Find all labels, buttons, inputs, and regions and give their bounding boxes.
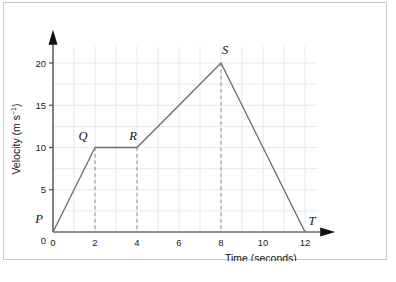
x-axis-arrowhead (320, 228, 335, 237)
x-tick-label: 10 (258, 237, 269, 248)
point-label-t: T (309, 214, 317, 228)
x-tick-label: 2 (92, 237, 97, 248)
y-tick-label: 5 (41, 184, 46, 195)
point-label-r: R (128, 129, 137, 143)
x-tick-label: 0 (50, 237, 55, 248)
point-labels: PQRST (34, 43, 316, 228)
point-label-p: P (34, 212, 43, 226)
y-axis-arrowhead (49, 30, 58, 45)
x-tick-label: 6 (176, 237, 181, 248)
x-tick-label: 8 (218, 237, 223, 248)
point-label-s: S (222, 43, 229, 57)
x-tick-labels: 024681012 (50, 237, 310, 248)
y-tick-label: 15 (35, 100, 46, 111)
y-axis-title: Velocity (m s−1) (10, 104, 22, 175)
grid-lines (53, 46, 318, 232)
x-axis-title-text: Time (seconds) (225, 252, 297, 261)
point-label-q: Q (78, 129, 87, 143)
x-tick-label: 4 (134, 237, 139, 248)
y-tick-label: 10 (35, 142, 46, 153)
x-tick-label: 12 (300, 237, 311, 248)
velocity-time-chart: 024681012 05101520 PQRST Time (seconds) … (4, 3, 388, 261)
y-tick-label: 20 (35, 58, 46, 69)
x-axis-title: Time (seconds) (225, 252, 297, 261)
y-axis-title-text: Velocity (m s−1) (10, 104, 22, 175)
y-tick-label: 0 (41, 235, 46, 246)
figure-frame: 024681012 05101520 PQRST Time (seconds) … (3, 2, 387, 260)
